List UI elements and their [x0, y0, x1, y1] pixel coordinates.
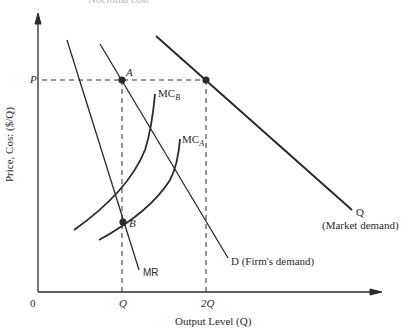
label-market-demand: (Market demand): [322, 220, 399, 231]
mc-a-curve: [99, 139, 180, 240]
tick-2q: 2Q: [201, 298, 214, 309]
origin-label: 0: [30, 298, 36, 309]
market-demand-curve: [156, 36, 352, 210]
point-a-marker: [118, 76, 125, 83]
label-firm-demand: D (Firm's demand): [231, 256, 314, 267]
label-mr: MR: [143, 268, 159, 278]
firm-demand-curve: [100, 44, 228, 258]
tick-p: P: [30, 74, 37, 85]
label-point-a: A: [126, 67, 133, 78]
y-axis-label: Price, Cos: ($/Q): [3, 107, 15, 182]
label-mc-a: MCA: [182, 134, 204, 148]
label-market-q: Q: [356, 207, 364, 218]
market-point-marker: [202, 76, 209, 83]
tick-q: Q: [119, 298, 127, 309]
x-axis-label: Output Level (Q): [175, 316, 251, 327]
label-mc-b: MCB: [158, 88, 180, 102]
axes: [35, 13, 382, 295]
diagram-canvas: [0, 0, 410, 335]
label-point-b: B: [129, 218, 136, 229]
point-b-marker: [119, 218, 126, 225]
